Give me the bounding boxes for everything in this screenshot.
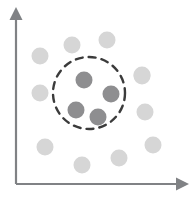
scatter-point-outlier: [32, 48, 49, 65]
scatter-point-outlier: [32, 85, 49, 102]
scatter-point-outlier: [64, 37, 81, 54]
scatter-plot-figure: [0, 0, 192, 197]
scatter-point-outlier: [145, 137, 162, 154]
scatter-point-outlier: [74, 157, 91, 174]
scatter-point-cluster: [76, 72, 93, 89]
scatter-point-cluster: [68, 102, 85, 119]
scatter-point-outlier: [137, 104, 154, 121]
scatter-point-outlier: [37, 139, 54, 156]
scatter-point-outlier: [134, 68, 151, 85]
scatter-point-cluster: [103, 86, 120, 103]
cluster-points-group: [68, 72, 120, 126]
scatter-point-outlier: [111, 150, 128, 167]
scatter-point-outlier: [99, 32, 116, 49]
plot-canvas: [0, 0, 192, 197]
scatter-point-cluster: [90, 109, 107, 126]
outlier-points-group: [32, 32, 162, 174]
